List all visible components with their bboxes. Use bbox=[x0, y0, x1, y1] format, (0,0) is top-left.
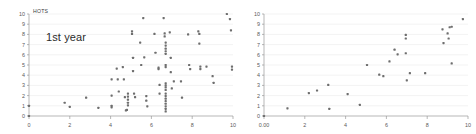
data-point bbox=[153, 33, 155, 35]
y-tick-label: 0 bbox=[257, 113, 260, 119]
y-tick-label: 3 bbox=[22, 82, 25, 88]
data-point bbox=[328, 108, 330, 110]
data-point bbox=[397, 53, 399, 55]
data-point bbox=[143, 56, 145, 58]
y-tick-label: 1 bbox=[257, 103, 260, 109]
data-point bbox=[308, 92, 310, 94]
x-tick-label: 6 bbox=[150, 122, 153, 128]
data-point bbox=[165, 95, 167, 97]
data-point bbox=[132, 70, 134, 72]
y-axis-title-left: HOTS bbox=[33, 8, 48, 14]
y-tick-label: 8 bbox=[257, 31, 260, 37]
data-point bbox=[462, 18, 464, 20]
data-point bbox=[263, 115, 265, 117]
data-point bbox=[187, 33, 189, 35]
data-point bbox=[180, 80, 182, 82]
y-tick-label: 0 bbox=[22, 113, 25, 119]
data-point bbox=[316, 89, 318, 91]
data-point bbox=[127, 104, 129, 106]
data-point bbox=[165, 45, 167, 47]
data-point bbox=[212, 75, 214, 77]
data-point bbox=[157, 68, 159, 70]
data-point bbox=[134, 96, 136, 98]
data-point bbox=[405, 52, 407, 54]
data-point bbox=[111, 78, 113, 80]
data-point bbox=[359, 104, 361, 106]
data-point bbox=[116, 67, 118, 69]
data-point bbox=[181, 97, 183, 99]
data-point bbox=[132, 57, 134, 59]
data-point bbox=[226, 13, 228, 15]
y-tick-label: 9 bbox=[257, 21, 260, 27]
chart-panel-first-year: 0123456789100246810 HOTS 1st year bbox=[0, 0, 238, 134]
y-tick-label: 9 bbox=[22, 21, 25, 27]
x-tick-label: 8 bbox=[191, 122, 194, 128]
y-tick-label: 4 bbox=[257, 72, 260, 78]
data-point bbox=[64, 102, 66, 104]
y-tick-label: 10 bbox=[254, 11, 260, 17]
data-point bbox=[405, 34, 407, 36]
data-point bbox=[197, 30, 199, 32]
x-tick-label: 2 bbox=[303, 122, 306, 128]
x-tick-label: 4 bbox=[109, 122, 112, 128]
data-point bbox=[158, 92, 160, 94]
data-point bbox=[165, 50, 167, 52]
data-point bbox=[158, 84, 160, 86]
chart-title-first-year: 1st year bbox=[46, 31, 86, 43]
data-point bbox=[122, 66, 124, 68]
data-point bbox=[231, 65, 233, 67]
data-point bbox=[171, 87, 173, 89]
data-point bbox=[229, 18, 231, 20]
y-tick-label: 2 bbox=[22, 93, 25, 99]
data-point bbox=[199, 65, 201, 67]
data-point bbox=[286, 107, 288, 109]
y-tick-label: 2 bbox=[257, 93, 260, 99]
data-point bbox=[451, 26, 453, 28]
data-point bbox=[327, 84, 329, 86]
data-point bbox=[165, 103, 167, 105]
x-tick-label: 2 bbox=[68, 122, 71, 128]
y-tick-label: 1 bbox=[22, 103, 25, 109]
data-point bbox=[424, 72, 426, 74]
data-point bbox=[347, 93, 349, 95]
data-point bbox=[170, 71, 172, 73]
data-point bbox=[165, 64, 167, 66]
data-point bbox=[97, 107, 99, 109]
data-point bbox=[165, 86, 167, 88]
data-point bbox=[145, 95, 147, 97]
data-point bbox=[165, 48, 167, 50]
data-point bbox=[131, 30, 133, 32]
data-point bbox=[198, 33, 200, 35]
data-point bbox=[127, 99, 129, 101]
data-point bbox=[165, 105, 167, 107]
data-point bbox=[118, 90, 120, 92]
data-point bbox=[169, 31, 171, 33]
data-point bbox=[127, 92, 129, 94]
data-point bbox=[164, 35, 166, 37]
data-point bbox=[165, 53, 167, 55]
y-tick-label: 6 bbox=[22, 52, 25, 58]
data-point bbox=[165, 108, 167, 110]
data-point bbox=[165, 92, 167, 94]
y-tick-label: 3 bbox=[257, 82, 260, 88]
data-point bbox=[406, 79, 408, 81]
data-point bbox=[111, 106, 113, 108]
data-point bbox=[441, 28, 443, 30]
y-tick-label: 6 bbox=[257, 52, 260, 58]
data-point bbox=[164, 32, 166, 34]
data-point bbox=[139, 41, 141, 43]
y-tick-label: 10 bbox=[19, 11, 25, 17]
data-point bbox=[127, 96, 129, 98]
data-point bbox=[199, 68, 201, 70]
data-point bbox=[230, 29, 232, 31]
data-point bbox=[170, 57, 172, 59]
data-point bbox=[382, 75, 384, 77]
x-tick-label: 10 bbox=[230, 122, 236, 128]
data-point bbox=[28, 115, 30, 117]
data-point bbox=[165, 100, 167, 102]
data-point bbox=[165, 84, 167, 86]
data-point bbox=[131, 33, 133, 35]
data-point bbox=[117, 78, 119, 80]
scatter-plot-figure: 0123456789100246810 HOTS 1st year 012345… bbox=[0, 0, 476, 134]
data-point bbox=[133, 92, 135, 94]
